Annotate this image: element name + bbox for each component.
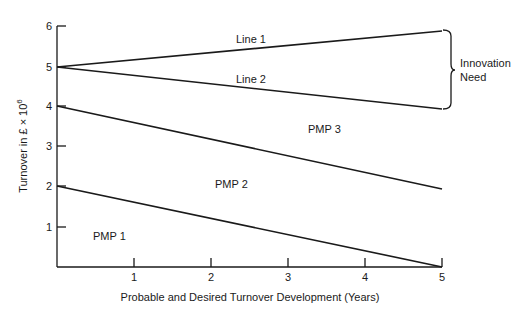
pmp3-boundary	[57, 106, 442, 189]
label-line-2: Line 2	[236, 73, 266, 85]
y-tick-2: 2	[46, 180, 52, 192]
label-pmp-3: PMP 3	[308, 123, 341, 135]
x-tick-labels: 1 2 3 4 5	[131, 271, 445, 283]
label-line-1: Line 1	[236, 33, 266, 45]
y-axis-label: Turnover in £ × 106	[15, 99, 29, 193]
y-tick-4: 4	[46, 100, 52, 112]
y-tick-6: 6	[46, 20, 52, 32]
x-tick-1: 1	[131, 271, 137, 283]
y-tick-labels: 6 5 4 3 2 1	[46, 20, 52, 233]
annotations: Line 1 Line 2 PMP 3 PMP 2 PMP 1 Innovati…	[93, 33, 511, 242]
x-axis-label: Probable and Desired Turnover Developmen…	[121, 291, 380, 303]
y-tick-5: 5	[46, 61, 52, 73]
pmp2-boundary	[57, 186, 442, 267]
label-innovation: Innovation	[460, 57, 511, 69]
innovation-brace	[443, 30, 455, 109]
y-tick-1: 1	[46, 221, 52, 233]
x-tick-4: 4	[362, 271, 368, 283]
y-axis-label-main: Turnover in £ × 10	[17, 104, 29, 193]
x-tick-3: 3	[285, 271, 291, 283]
y-axis-label-exponent: 6	[15, 99, 24, 104]
x-tick-5: 5	[439, 271, 445, 283]
label-pmp-1: PMP 1	[93, 230, 126, 242]
label-pmp-2: PMP 2	[215, 178, 248, 190]
chart-canvas: 6 5 4 3 2 1 1 2 3 4 5 Line 1 Line 2 PMP …	[0, 0, 526, 309]
y-tick-3: 3	[46, 140, 52, 152]
x-tick-2: 2	[208, 271, 214, 283]
label-need: Need	[460, 71, 486, 83]
